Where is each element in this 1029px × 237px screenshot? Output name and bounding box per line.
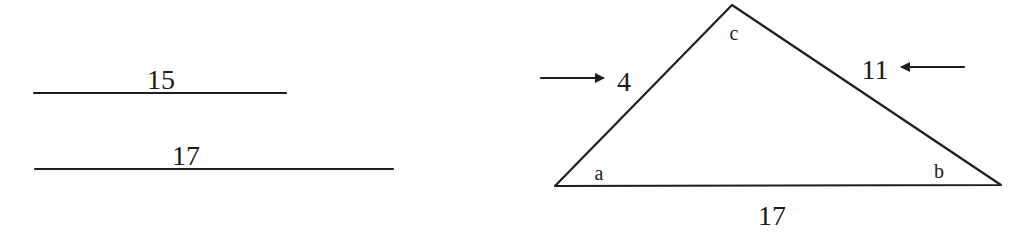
segment-17: 17 xyxy=(35,140,393,171)
side-label-ac: 4 xyxy=(617,66,631,97)
side-label-bc: 11 xyxy=(862,54,889,85)
geometry-diagram: 15 17 a b c 4 11 17 xyxy=(0,0,1029,237)
segment-17-label: 17 xyxy=(172,140,200,171)
triangle-abc: a b c 4 11 17 xyxy=(555,5,1001,231)
vertex-label-b: b xyxy=(934,160,944,182)
side-label-ab: 17 xyxy=(758,200,786,231)
vertex-label-a: a xyxy=(595,162,604,184)
segment-15: 15 xyxy=(34,64,286,95)
vertex-label-c: c xyxy=(730,22,739,44)
segment-15-label: 15 xyxy=(147,64,175,95)
